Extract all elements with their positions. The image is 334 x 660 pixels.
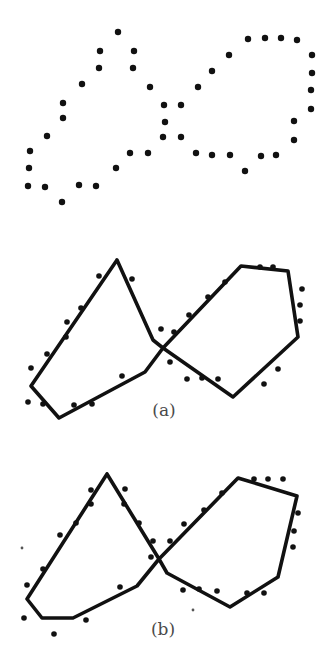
panel-input-dots (25, 29, 315, 205)
sample-point (295, 510, 301, 516)
sample-point (28, 365, 34, 371)
sample-point (63, 334, 69, 340)
sample-point (130, 65, 136, 71)
sample-point (25, 399, 31, 405)
fitted-polygon-line (27, 474, 297, 618)
sample-point (150, 538, 156, 544)
sample-point (261, 381, 267, 387)
sample-point (251, 476, 257, 482)
sample-point (297, 318, 303, 324)
sample-point (136, 520, 142, 526)
sample-point (193, 150, 199, 156)
sample-point (265, 476, 271, 482)
sample-point (131, 48, 137, 54)
sample-point (93, 183, 99, 189)
noise-point (192, 609, 195, 612)
sample-point (24, 582, 30, 588)
sample-point (97, 48, 103, 54)
sample-point (88, 501, 94, 507)
sample-point (25, 183, 31, 189)
sample-point (199, 375, 205, 381)
sample-point (261, 590, 267, 596)
sample-point (214, 588, 220, 594)
sample-point (64, 319, 70, 325)
sample-point (299, 286, 305, 292)
sample-point (44, 133, 50, 139)
sample-point (270, 264, 276, 270)
sample-point (178, 134, 184, 140)
panel-a-label: (a) (152, 402, 175, 419)
sample-point (21, 615, 27, 621)
sample-point (205, 294, 211, 300)
sample-point (180, 587, 186, 593)
sample-point (167, 538, 173, 544)
sample-point (59, 199, 65, 205)
sample-point (226, 52, 232, 58)
sample-point (162, 119, 168, 125)
sample-point (88, 487, 94, 493)
sample-point (122, 486, 128, 492)
sample-point (290, 544, 296, 550)
sample-point (89, 401, 95, 407)
sample-point (27, 148, 33, 154)
sample-point (127, 150, 133, 156)
sample-point (129, 276, 135, 282)
panel-a-polygon-fit (25, 260, 305, 418)
sample-point (308, 87, 314, 93)
sample-point (117, 584, 123, 590)
sample-point (257, 264, 263, 270)
sample-point (209, 68, 215, 74)
sample-point (79, 81, 85, 87)
sample-point (291, 528, 297, 534)
sample-point (57, 532, 63, 538)
sample-point (215, 376, 221, 382)
sample-point (115, 29, 121, 35)
sample-point (147, 84, 153, 90)
sample-point (60, 100, 66, 106)
sample-point (275, 366, 281, 372)
sample-point (178, 102, 184, 108)
sample-point (291, 118, 297, 124)
figure-canvas (0, 0, 334, 660)
sample-point (297, 302, 303, 308)
sample-point (201, 507, 207, 513)
sample-point (309, 52, 315, 58)
sample-point (244, 590, 250, 596)
sample-point (209, 152, 215, 158)
sample-point (222, 279, 228, 285)
sample-point (242, 168, 248, 174)
sample-point (171, 329, 177, 335)
sample-point (51, 631, 57, 637)
sample-point (291, 137, 297, 143)
sample-point (158, 326, 164, 332)
sample-point (219, 490, 225, 496)
noise-point (21, 547, 24, 550)
sample-point (184, 376, 190, 382)
sample-point (227, 152, 233, 158)
sample-point (96, 273, 102, 279)
sample-point (44, 351, 50, 357)
sample-point (273, 152, 279, 158)
sample-point (280, 476, 286, 482)
sample-point (186, 312, 192, 318)
sample-point (309, 70, 315, 76)
sample-point (181, 521, 187, 527)
fitted-polygon-line (31, 260, 298, 418)
sample-point (96, 65, 102, 71)
sample-point (258, 153, 264, 159)
sample-point (71, 402, 77, 408)
sample-point (262, 35, 268, 41)
sample-point (42, 184, 48, 190)
sample-point (40, 401, 46, 407)
sample-point (121, 501, 127, 507)
sample-point (148, 554, 154, 560)
panel-b-label: (b) (151, 621, 175, 638)
sample-point (245, 36, 251, 42)
sample-point (119, 373, 125, 379)
sample-point (160, 134, 166, 140)
sample-point (40, 566, 46, 572)
panel-b-polygon-fit (21, 474, 301, 637)
sample-point (161, 102, 167, 108)
sample-point (26, 165, 32, 171)
sample-point (294, 37, 300, 43)
